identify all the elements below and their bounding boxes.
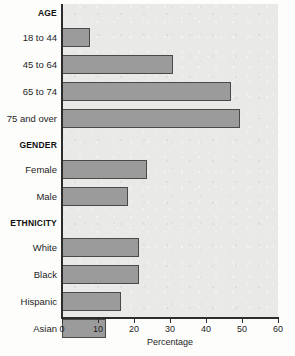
bar-45-to-64 (62, 55, 173, 74)
x-tick-label-20: 20 (129, 324, 139, 334)
x-tick-60 (278, 319, 279, 323)
x-tick-label-10: 10 (93, 324, 103, 334)
category-label-black: Black (0, 269, 57, 280)
bar-female (62, 160, 147, 179)
x-axis-title: Percentage (61, 337, 279, 347)
group-header-gender: GENDER (0, 140, 57, 150)
x-tick-20 (134, 319, 135, 323)
x-tick-40 (206, 319, 207, 323)
x-tick-30 (170, 319, 171, 323)
x-tick-label-50: 50 (237, 324, 247, 334)
x-tick-label-30: 30 (165, 324, 175, 334)
x-tick-50 (242, 319, 243, 323)
category-label-18-to-44: 18 to 44 (0, 32, 57, 43)
x-tick-10 (98, 319, 99, 323)
category-label-65-to-74: 65 to 74 (0, 86, 57, 97)
bar-hispanic (62, 292, 121, 311)
x-tick-label-0: 0 (59, 324, 64, 334)
category-label-asian: Asian (0, 323, 57, 334)
category-label-45-to-64: 45 to 64 (0, 59, 57, 70)
group-header-age: AGE (0, 8, 57, 18)
category-label-male: Male (0, 191, 57, 202)
x-tick-label-60: 60 (273, 324, 283, 334)
bar-chart: AGE18 to 4445 to 6465 to 7475 and overGE… (0, 0, 295, 356)
category-label-75-and-over: 75 and over (0, 113, 57, 124)
bar-white (62, 238, 139, 257)
x-tick-label-40: 40 (201, 324, 211, 334)
group-header-ethnicity: ETHNICITY (0, 218, 57, 228)
bar-male (62, 187, 128, 206)
category-label-white: White (0, 242, 57, 253)
bar-75-and-over (62, 109, 240, 128)
x-tick-0 (62, 319, 63, 323)
bar-65-to-74 (62, 82, 231, 101)
y-axis (61, 4, 63, 317)
bar-18-to-44 (62, 28, 90, 47)
category-label-female: Female (0, 164, 57, 175)
category-label-hispanic: Hispanic (0, 296, 57, 307)
bar-black (62, 265, 139, 284)
